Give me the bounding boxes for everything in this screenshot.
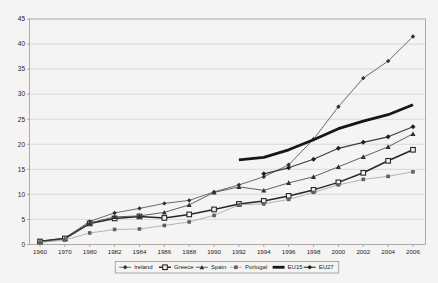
data-point-marker: [361, 178, 365, 182]
legend-label-spain: Spain: [211, 264, 226, 270]
y-tick-label: 40: [18, 40, 26, 47]
y-tick-label: 30: [18, 90, 26, 97]
data-point-marker: [38, 241, 42, 245]
data-point-marker: [286, 194, 291, 199]
data-point-marker: [88, 231, 92, 235]
x-tick-label: 1998: [307, 248, 321, 255]
legend-label-ireland: Ireland: [134, 264, 152, 270]
data-point-marker: [187, 220, 191, 224]
x-tick-label: 2004: [381, 248, 395, 255]
legend: IrelandGreeceSpainPortugalEU15EU27: [115, 262, 339, 274]
x-tick-label: 2006: [406, 248, 420, 255]
data-point-marker: [63, 238, 67, 242]
data-point-marker: [386, 159, 391, 164]
x-tick-label: 1982: [108, 248, 122, 255]
x-tick-label: 1960: [33, 248, 47, 255]
data-point-marker: [287, 198, 291, 202]
legend-item-greece: Greece: [159, 264, 194, 270]
y-tick-label: 0: [21, 241, 25, 248]
data-point-marker: [113, 228, 117, 232]
chart-svg: 0510152025303540451960197019801982198419…: [0, 0, 438, 283]
y-tick-label: 25: [18, 116, 26, 123]
y-tick-label: 45: [18, 15, 26, 22]
y-tick-label: 35: [18, 65, 26, 72]
data-point-marker: [212, 214, 216, 218]
data-point-marker: [187, 212, 192, 217]
x-tick-label: 1990: [207, 248, 221, 255]
data-point-marker: [361, 171, 366, 176]
data-point-marker: [163, 224, 167, 228]
x-tick-label: 1988: [182, 248, 196, 255]
chart-figure: 0510152025303540451960197019801982198419…: [0, 0, 438, 283]
x-tick-label: 1994: [257, 248, 271, 255]
data-point-marker: [212, 207, 217, 212]
data-point-marker: [138, 227, 142, 231]
data-point-marker: [162, 216, 167, 221]
x-tick-label: 1980: [83, 248, 97, 255]
x-tick-label: 1986: [157, 248, 171, 255]
data-point-marker: [312, 191, 316, 195]
x-tick-label: 2000: [332, 248, 346, 255]
data-point-marker: [262, 202, 266, 206]
x-tick-label: 1970: [58, 248, 72, 255]
y-tick-label: 15: [18, 166, 26, 173]
data-point-marker: [386, 175, 390, 179]
y-tick-label: 20: [18, 141, 26, 148]
x-tick-label: 1992: [232, 248, 246, 255]
x-tick-label: 1984: [133, 248, 147, 255]
data-point-marker: [234, 265, 238, 269]
data-point-marker: [411, 170, 415, 174]
x-tick-label: 2002: [356, 248, 370, 255]
legend-label-eu27: EU27: [319, 264, 335, 270]
y-tick-label: 5: [21, 216, 25, 223]
data-point-marker: [337, 183, 341, 187]
legend-label-portugal: Portugal: [245, 264, 267, 270]
data-point-marker: [411, 147, 416, 152]
x-tick-label: 1996: [282, 248, 296, 255]
data-point-marker: [163, 265, 168, 270]
data-point-marker: [237, 203, 241, 207]
legend-label-eu15: EU15: [288, 264, 304, 270]
y-tick-label: 10: [18, 191, 26, 198]
legend-label-greece: Greece: [174, 264, 194, 270]
